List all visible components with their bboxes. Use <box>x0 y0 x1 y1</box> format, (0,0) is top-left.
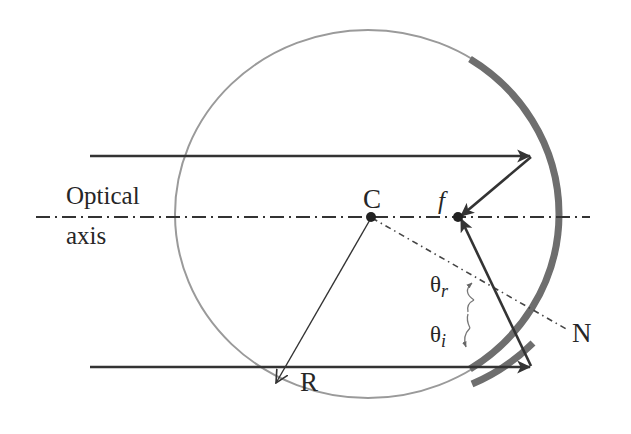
theta-r-label: θr <box>430 272 449 301</box>
concave-mirror-arc <box>470 59 559 369</box>
focus-label: f <box>438 187 448 214</box>
mirror-diagram: Optical axis C f θr θi N R <box>0 0 631 434</box>
center-label: C <box>363 184 381 214</box>
reflected-ray-top <box>461 157 531 216</box>
optical-axis-label-line1: Optical <box>66 182 140 209</box>
normal-line <box>372 218 568 330</box>
radius-line <box>276 218 371 383</box>
reflected-ray-bottom <box>461 219 531 366</box>
focal-point <box>453 212 463 222</box>
theta-i-label: θi <box>430 322 446 351</box>
radius-label: R <box>300 367 318 397</box>
angle-arc-theta-r <box>467 283 474 300</box>
angle-arc-theta-i-top <box>467 314 470 328</box>
normal-label: N <box>572 318 592 348</box>
angle-arc-theta-i <box>465 328 470 347</box>
angle-arc-theta-r-tail <box>468 300 474 312</box>
optical-axis-label-line2: axis <box>66 222 106 249</box>
